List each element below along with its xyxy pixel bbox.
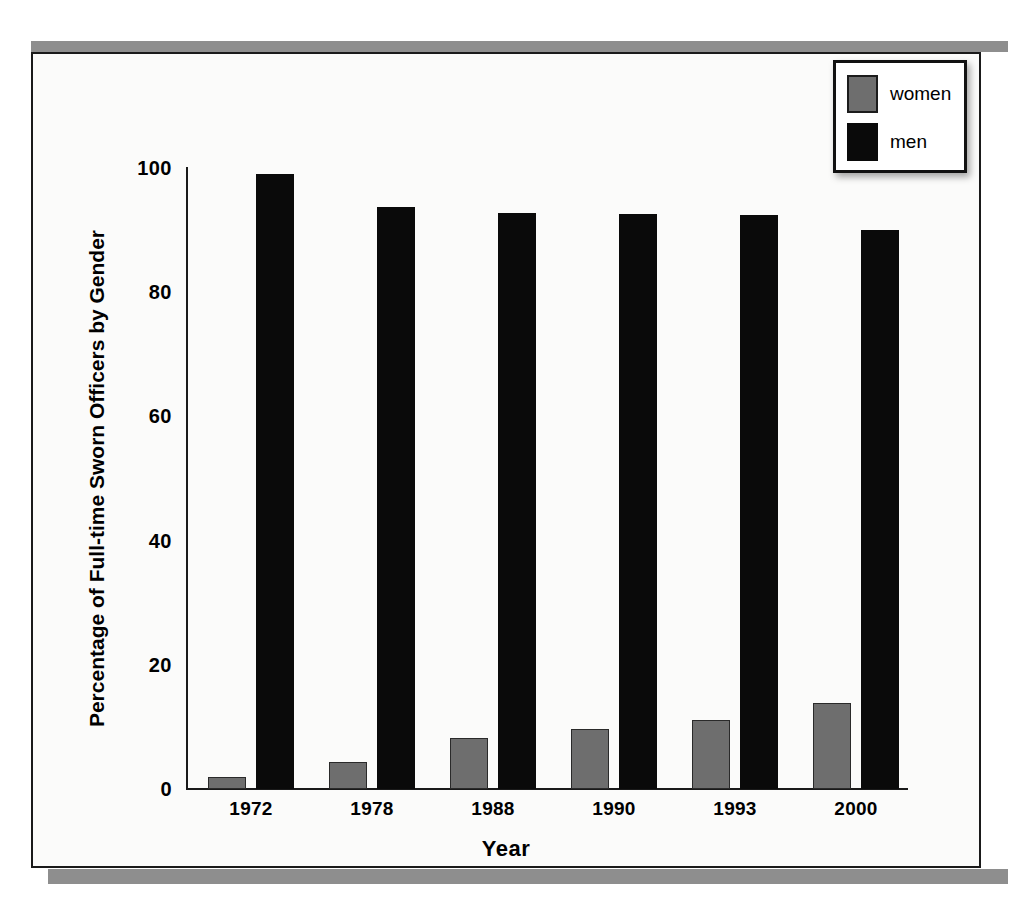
y-tick-label: 80 [112,281,172,304]
y-tick-label: 0 [112,778,172,801]
y-tick-label: 60 [112,405,172,428]
bar-men-1978 [377,207,415,789]
x-tick-label: 1990 [559,798,669,820]
x-axis-title: Year [31,836,981,862]
bar-women-2000 [813,703,851,789]
y-axis-tick-labels: 020406080100 [110,0,172,921]
x-tick-label: 2000 [801,798,911,820]
legend-swatch-men-icon [847,123,878,161]
bar-men-2000 [861,230,899,789]
legend: women men [833,60,967,173]
bar-men-1993 [740,215,778,789]
y-tick-label: 20 [112,653,172,676]
bar-women-1978 [329,762,367,789]
x-tick-label: 1978 [317,798,427,820]
plot-area [186,168,905,789]
bar-men-1988 [498,213,536,789]
legend-entry-women: women [847,70,964,118]
page-bottom-band [48,869,1008,884]
page-top-band [31,41,1008,52]
bar-women-1988 [450,738,488,789]
x-tick-label: 1988 [438,798,548,820]
x-tick-label: 1993 [680,798,790,820]
legend-entry-men: men [847,118,964,166]
y-tick-label: 100 [112,157,172,180]
legend-label-men: men [890,131,927,153]
legend-label-women: women [890,83,951,105]
bar-women-1972 [208,777,246,789]
legend-swatch-women-icon [847,75,878,113]
scanned-page: 020406080100 Percentage of Full-time Swo… [0,0,1019,921]
y-axis-title: Percentage of Full-time Sworn Officers b… [80,168,114,789]
bar-men-1990 [619,214,657,789]
y-tick-label: 40 [112,529,172,552]
bar-women-1993 [692,720,730,789]
x-tick-label: 1972 [196,798,306,820]
bar-men-1972 [256,174,294,789]
bar-women-1990 [571,729,609,789]
